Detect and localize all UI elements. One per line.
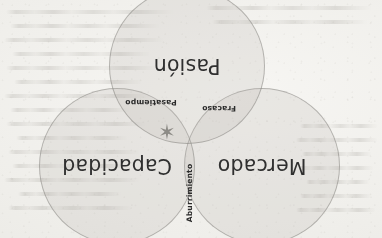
venn-intersection-label-pasatiempo: Pasatiempo [125,98,177,107]
venn-label-capacidad: Capacidad [62,154,172,178]
venn-diagram-page: Mercado Capacidad Pasión Aburrimiento Fr… [0,0,382,238]
venn-intersection-label-fracaso: Fracaso [202,104,236,113]
venn-diagram: Mercado Capacidad Pasión Aburrimiento Fr… [0,0,382,238]
venn-label-pasion: Pasión [153,54,220,78]
star-icon: ✶ [158,120,176,141]
venn-label-mercado: Mercado [217,154,306,178]
venn-intersection-label-aburrimiento: Aburrimiento [185,164,194,223]
